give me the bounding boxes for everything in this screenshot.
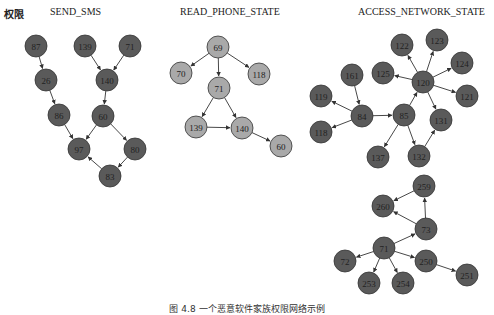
node-access-network-state-71: 71: [373, 237, 395, 259]
node-access-network-state-123: 123: [426, 29, 448, 51]
edge-120-to-124: [433, 68, 451, 77]
svg-text:85: 85: [400, 111, 410, 121]
node-access-network-state-122: 122: [391, 34, 413, 56]
svg-text:250: 250: [419, 257, 433, 267]
figure-caption: 图 4.8 一个恶意软件家族权限网络示例: [0, 302, 494, 315]
node-access-network-state-85: 85: [393, 104, 415, 126]
svg-text:70: 70: [177, 69, 187, 79]
edge-120-to-123: [427, 51, 434, 71]
node-access-network-state-161: 161: [341, 64, 363, 86]
edge-132-to-131: [425, 130, 435, 146]
svg-text:71: 71: [126, 42, 135, 52]
edge-85-to-132: [408, 125, 415, 144]
node-access-network-state-253: 253: [358, 272, 380, 294]
edge-73-to-259: [425, 198, 426, 218]
svg-text:125: 125: [376, 69, 390, 79]
edge-120-to-122: [408, 55, 418, 72]
node-send-sms-60: 60: [92, 105, 114, 127]
svg-text:123: 123: [430, 36, 444, 46]
svg-text:118: 118: [252, 70, 266, 80]
edge-69-to-70: [191, 53, 209, 66]
edge-71-to-253: [374, 258, 380, 272]
node-access-network-state-125: 125: [372, 62, 394, 84]
node-send-sms-71: 71: [119, 35, 141, 57]
node-access-network-state-73: 73: [415, 218, 437, 240]
edge-85-to-137: [384, 124, 398, 146]
node-send-sms-140: 140: [96, 69, 118, 91]
svg-text:71: 71: [380, 244, 389, 254]
node-send-sms-80: 80: [124, 138, 146, 160]
svg-text:87: 87: [32, 42, 42, 52]
svg-text:161: 161: [345, 71, 359, 81]
node-access-network-state-121: 121: [456, 85, 478, 107]
node-access-network-state-131: 131: [430, 109, 452, 131]
node-send-sms-87: 87: [25, 35, 47, 57]
svg-text:26: 26: [42, 76, 52, 86]
edge-60-to-97: [86, 125, 96, 139]
node-access-network-state-254: 254: [392, 272, 414, 294]
edge-26-to-86: [50, 90, 55, 104]
node-access-network-state-119: 119: [310, 85, 332, 107]
svg-text:80: 80: [131, 145, 141, 155]
edge-60-to-80: [111, 124, 127, 140]
edge-139-to-140: [91, 55, 101, 70]
edge-71-to-72: [356, 252, 373, 258]
node-read-phone-state-139: 139: [185, 116, 207, 138]
svg-text:69: 69: [214, 43, 224, 53]
svg-text:251: 251: [460, 271, 474, 281]
edge-71-to-140: [225, 98, 237, 118]
svg-text:121: 121: [460, 92, 474, 102]
edge-259-to-260: [394, 191, 414, 201]
node-send-sms-86: 86: [48, 104, 70, 126]
edge-84-to-118: [332, 120, 352, 128]
svg-text:60: 60: [277, 142, 287, 152]
edge-250-to-251: [436, 265, 455, 272]
node-access-network-state-251: 251: [456, 264, 478, 286]
svg-text:73: 73: [422, 225, 432, 235]
node-access-network-state-259: 259: [413, 175, 435, 197]
svg-text:259: 259: [417, 182, 431, 192]
node-access-network-state-260: 260: [372, 195, 394, 217]
svg-text:139: 139: [78, 42, 92, 52]
edge-87-to-26: [39, 57, 43, 69]
edge-86-to-97: [65, 125, 73, 139]
node-send-sms-139: 139: [74, 35, 96, 57]
svg-text:124: 124: [455, 59, 469, 69]
svg-text:71: 71: [215, 84, 224, 94]
node-access-network-state-250: 250: [415, 250, 437, 272]
node-send-sms-26: 26: [35, 69, 57, 91]
node-access-network-state-72: 72: [334, 250, 356, 272]
svg-text:119: 119: [314, 92, 328, 102]
node-send-sms-83: 83: [99, 165, 121, 187]
svg-text:139: 139: [189, 123, 203, 133]
edge-80-to-83: [118, 157, 127, 167]
node-read-phone-state-140: 140: [231, 117, 253, 139]
node-access-network-state-137: 137: [367, 146, 389, 168]
svg-text:118: 118: [314, 128, 328, 138]
node-access-network-state-118: 118: [310, 121, 332, 143]
svg-text:140: 140: [235, 124, 249, 134]
edge-83-to-97: [88, 157, 102, 169]
edge-120-to-125: [395, 76, 413, 80]
svg-text:132: 132: [412, 152, 426, 162]
node-read-phone-state-60: 60: [270, 135, 292, 157]
svg-text:120: 120: [416, 78, 430, 88]
edge-69-to-118: [227, 53, 249, 67]
edge-71-to-139: [202, 98, 213, 117]
node-read-phone-state-71: 71: [208, 77, 230, 99]
svg-text:84: 84: [358, 112, 368, 122]
edge-140-to-60: [252, 133, 270, 141]
edge-73-to-260: [394, 212, 417, 224]
edge-71-to-254: [389, 258, 397, 273]
svg-text:253: 253: [362, 279, 376, 289]
edge-71-to-250: [395, 251, 415, 257]
node-access-network-state-132: 132: [408, 145, 430, 167]
svg-text:86: 86: [55, 111, 65, 121]
node-read-phone-state-70: 70: [170, 62, 192, 84]
node-read-phone-state-69: 69: [207, 36, 229, 58]
edge-140-to-60: [104, 91, 106, 104]
svg-text:137: 137: [371, 153, 385, 163]
svg-text:254: 254: [396, 279, 410, 289]
